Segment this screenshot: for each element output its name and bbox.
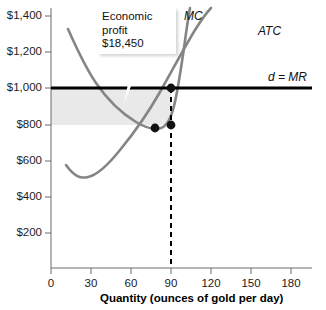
y-tick-label-400: $400: [0, 190, 42, 202]
x-tick-label-30: 30: [71, 277, 111, 289]
atc-curve-label: ATC: [258, 24, 281, 38]
x-tick-label-90: 90: [151, 277, 191, 289]
y-tick-label-800: $800: [0, 118, 42, 130]
callout-line-1: Economic: [102, 10, 173, 24]
mc-curve-label: MC: [184, 9, 203, 23]
y-tick-label-600: $600: [0, 154, 42, 166]
x-axis-title: Quantity (ounces of gold per day): [100, 292, 283, 304]
profit-maximizing-point-marker: [167, 84, 176, 93]
y-tick-label-1400: $1,400: [0, 9, 42, 21]
callout-line-2: profit: [102, 24, 173, 38]
economic-profit-callout: Economic profit $18,450: [98, 8, 176, 54]
y-tick-label-200: $200: [0, 226, 42, 238]
y-axis-ticks: [45, 16, 51, 233]
atc-at-quantity-point-marker: [167, 121, 176, 130]
x-tick-label-60: 60: [111, 277, 151, 289]
x-axis-ticks: [51, 268, 291, 274]
x-tick-label-180: 180: [271, 277, 311, 289]
demand-mr-label: d = MR: [268, 70, 307, 84]
x-tick-label-0: 0: [31, 277, 71, 289]
economic-profit-chart: $1,400 $1,200 $1,000 $800 $600 $400 $200…: [0, 0, 326, 310]
y-tick-label-1200: $1,200: [0, 45, 42, 57]
x-tick-label-120: 120: [191, 277, 231, 289]
minimum-atc-point-marker: [151, 124, 160, 133]
economic-profit-shaded-area: [51, 88, 171, 125]
callout-line-3: $18,450: [102, 37, 173, 51]
x-tick-label-150: 150: [231, 277, 271, 289]
y-tick-label-1000: $1,000: [0, 81, 42, 93]
